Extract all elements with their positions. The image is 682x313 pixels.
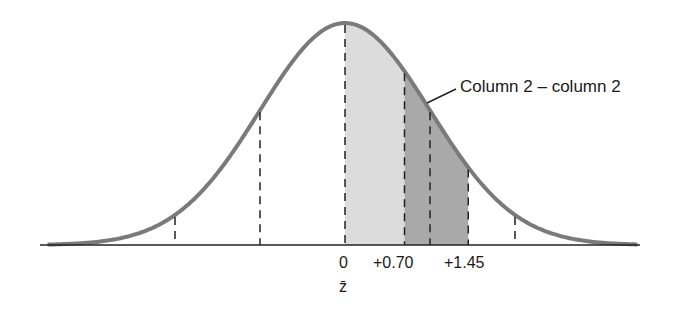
axis-label-z-bar: z̄ <box>339 278 347 296</box>
axis-label-plus-1-45: +1.45 <box>444 254 484 272</box>
callout-label: Column 2 – column 2 <box>460 77 621 97</box>
axis-label-plus-0-70: +0.70 <box>373 254 413 272</box>
axis-label-zero: 0 <box>339 254 348 272</box>
shaded-region-1 <box>405 71 469 245</box>
bell-curve <box>48 23 638 245</box>
callout-leader <box>427 89 456 103</box>
